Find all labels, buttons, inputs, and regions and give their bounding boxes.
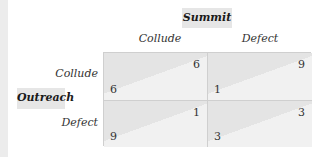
column-player-payoff: 6 [193, 58, 200, 71]
row-player-label: Outreach [17, 88, 65, 109]
row-strategy-defect: Defect [38, 116, 98, 129]
row-player-payoff: 1 [214, 83, 221, 96]
row-player-payoff: 9 [110, 130, 117, 143]
cell-collude-collude: 6 6 [104, 53, 208, 101]
column-player-label: Summit [182, 8, 232, 28]
row-player-payoff: 3 [214, 130, 221, 143]
cell-defect-collude: 1 9 [104, 101, 208, 147]
column-player-payoff: 3 [298, 106, 305, 119]
column-strategy-defect: Defect [230, 32, 290, 45]
cell-defect-defect: 3 3 [208, 101, 312, 147]
row-strategy-collude: Collude [38, 67, 98, 80]
column-player-payoff: 9 [298, 58, 305, 71]
payoff-matrix: 6 6 9 1 1 9 3 3 [103, 52, 311, 146]
column-strategy-collude: Collude [130, 32, 190, 45]
row-player-payoff: 6 [110, 83, 117, 96]
cell-collude-defect: 9 1 [208, 53, 312, 101]
left-margin-strip [0, 0, 8, 157]
column-player-payoff: 1 [193, 106, 200, 119]
